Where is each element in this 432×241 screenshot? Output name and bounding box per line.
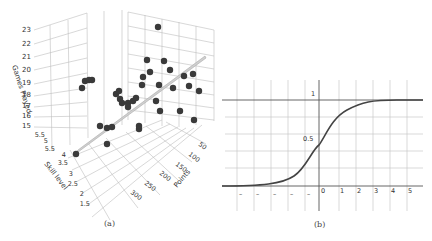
x-tick: 1 bbox=[340, 187, 344, 195]
y-axis-ticks: 5.5 5 5.5 4 3.5 3 2.5 2 1.5 bbox=[35, 131, 90, 208]
x-tick: 300 bbox=[129, 188, 144, 202]
y-annotation-1: 1 bbox=[311, 90, 315, 98]
x-tick: 5 bbox=[408, 187, 412, 195]
caption-b: (b) bbox=[314, 220, 325, 229]
x-tick: 3 bbox=[374, 187, 378, 195]
y-tick: 2.5 bbox=[68, 180, 78, 188]
x-tick: 50 bbox=[197, 140, 208, 151]
y-tick: 4 bbox=[62, 151, 66, 159]
y-annotation-half: 0.5 bbox=[303, 135, 313, 143]
z-tick: 20 bbox=[22, 66, 31, 74]
y-tick: 5 bbox=[44, 137, 48, 145]
x-tick: 200 bbox=[158, 169, 173, 183]
x-tick: 4 bbox=[391, 187, 395, 195]
sigmoid-curve bbox=[222, 100, 423, 186]
x-tick: 2 bbox=[357, 187, 361, 195]
y-tick: 5.5 bbox=[45, 145, 55, 153]
z-tick: 21 bbox=[22, 53, 31, 61]
z-tick: 15 bbox=[22, 122, 31, 130]
x-tick: – bbox=[273, 190, 276, 198]
sigmoid-chart: 1 0.5 – – – – – 0 1 2 3 4 5 bbox=[222, 0, 432, 241]
x-tick: – bbox=[307, 190, 310, 198]
y-tick: 1.5 bbox=[80, 200, 90, 208]
caption-a: (a) bbox=[104, 219, 115, 228]
x-tick: – bbox=[290, 190, 293, 198]
z-axis-ticks: 23 22 21 20 19 18 17 16 15 bbox=[22, 26, 31, 130]
x-tick: – bbox=[256, 190, 259, 198]
x-tick: 250 bbox=[143, 179, 158, 193]
x-tick: – bbox=[239, 190, 242, 198]
z-tick: 23 bbox=[22, 26, 31, 34]
sigmoid-labels: 1 0.5 – – – – – 0 1 2 3 4 5 bbox=[239, 90, 412, 198]
z-tick: 22 bbox=[22, 40, 31, 48]
x-tick: 0 bbox=[321, 187, 325, 195]
x-axis-label: Points bbox=[172, 168, 192, 190]
scatter-3d-chart: 23 22 21 20 19 18 17 16 15 Games Played … bbox=[0, 0, 220, 241]
regression-plane bbox=[74, 56, 206, 155]
y-tick: 2 bbox=[80, 190, 84, 198]
y-tick: 3.5 bbox=[58, 159, 68, 167]
scatter-3d-panel: 23 22 21 20 19 18 17 16 15 Games Played … bbox=[0, 0, 220, 241]
sigmoid-panel: 1 0.5 – – – – – 0 1 2 3 4 5 (b) bbox=[222, 0, 432, 241]
x-tick: 100 bbox=[187, 150, 202, 164]
y-tick: 3 bbox=[69, 170, 73, 178]
